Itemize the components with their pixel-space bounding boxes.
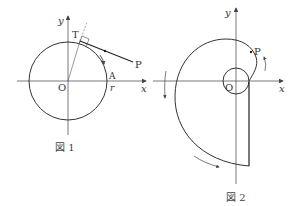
string-marker-dot <box>104 50 106 52</box>
label-o: O <box>225 82 233 93</box>
label-y: y <box>224 7 231 18</box>
point-p-dot <box>250 51 252 53</box>
label-t: T <box>72 29 79 40</box>
label-o: O <box>58 82 66 93</box>
figure-2: y P O x 図 2 <box>153 7 285 203</box>
figure-1: y T O A r x P 図 1 <box>17 15 147 153</box>
label-x: x <box>141 83 147 94</box>
tangent-string <box>80 41 133 62</box>
label-a: A <box>108 71 116 81</box>
figure-1-caption: 図 1 <box>55 142 75 153</box>
label-x: x <box>279 83 285 94</box>
label-p: P <box>135 59 142 70</box>
direction-arrow-icon <box>264 57 266 71</box>
figure-2-caption: 図 2 <box>226 192 246 203</box>
diagram-canvas: y T O A r x P 図 1 y P O x 図 2 <box>0 0 297 206</box>
label-p: P <box>254 46 261 57</box>
trajectory-curve <box>175 39 257 166</box>
radius-ray-ot <box>68 41 80 81</box>
direction-arrow-icon <box>165 71 166 98</box>
label-y: y <box>57 15 64 26</box>
label-r: r <box>110 83 115 93</box>
